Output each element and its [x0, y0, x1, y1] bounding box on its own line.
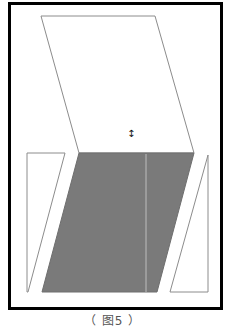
figure-canvas	[0, 0, 225, 329]
vertical-resize-cursor-icon: ↕	[127, 129, 135, 139]
figure-caption: （ 图5 ）	[0, 311, 225, 328]
